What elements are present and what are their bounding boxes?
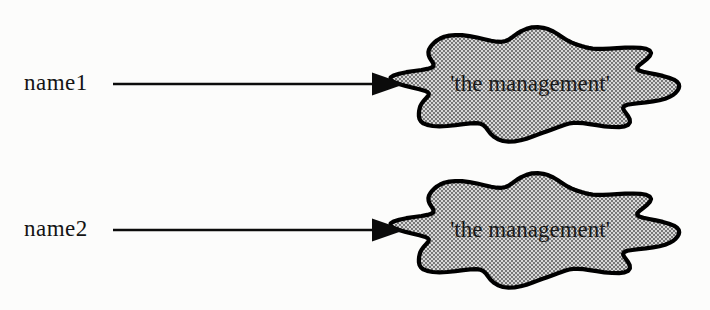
- blob-2-label: 'the management': [375, 217, 685, 243]
- arrow-2: [113, 219, 405, 242]
- name2-label: name2: [24, 216, 88, 242]
- arrow-1: [113, 73, 405, 96]
- blob-1-label: 'the management': [375, 71, 685, 97]
- name1-label: name1: [24, 70, 88, 96]
- diagram-scene: [0, 0, 710, 310]
- diagram-canvas: name1 name2 'the management' 'the manage…: [0, 0, 710, 310]
